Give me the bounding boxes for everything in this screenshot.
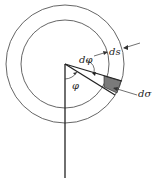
spherical-shell-diagram: dφ ds φ dσ bbox=[0, 0, 157, 184]
diagram-graphics bbox=[0, 0, 157, 184]
ds-arrow-right-head bbox=[123, 45, 128, 50]
label-dphi: dφ bbox=[79, 55, 92, 65]
label-phi: φ bbox=[72, 81, 79, 91]
phi-arrowhead bbox=[73, 72, 77, 75]
label-ds: ds bbox=[109, 47, 121, 57]
label-dsigma: dσ bbox=[138, 89, 151, 99]
